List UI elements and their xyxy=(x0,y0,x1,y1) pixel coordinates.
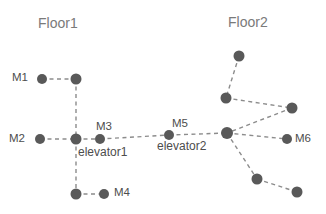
graph-node xyxy=(282,134,292,144)
graph-node xyxy=(287,103,298,114)
graph-node xyxy=(71,189,82,200)
graph-edge xyxy=(257,179,297,192)
floor-label-floor1: Floor1 xyxy=(38,16,78,30)
graph-edge xyxy=(227,133,287,139)
node-label: M2 xyxy=(9,133,25,145)
graph-node xyxy=(292,187,303,198)
graph-edge xyxy=(226,56,239,98)
elevator-label: elevator1 xyxy=(78,146,127,158)
node-label: M1 xyxy=(12,72,28,84)
node-label: M4 xyxy=(114,187,130,199)
floor-label-floor2: Floor2 xyxy=(228,15,268,29)
graph-node xyxy=(252,174,263,185)
graph-edge xyxy=(169,133,227,135)
nodes-layer xyxy=(35,51,303,200)
graph-edge xyxy=(226,98,292,108)
graph-node xyxy=(95,134,105,144)
graph-canvas xyxy=(0,0,326,214)
node-label: M6 xyxy=(295,133,311,145)
node-label: M3 xyxy=(96,121,112,133)
graph-edge xyxy=(227,133,257,179)
graph-node xyxy=(221,127,233,139)
floorplan-graph-diagram: M1M2elevator1M3M4M5elevator2M6Floor1Floo… xyxy=(0,0,326,214)
graph-node xyxy=(234,51,245,62)
graph-node xyxy=(221,93,232,104)
graph-node xyxy=(71,74,82,85)
graph-node xyxy=(35,134,45,144)
graph-node xyxy=(99,189,109,199)
elevator-label: elevator2 xyxy=(157,140,206,152)
node-label: M5 xyxy=(172,118,188,130)
graph-node xyxy=(71,134,82,145)
graph-edge xyxy=(227,108,292,133)
graph-node xyxy=(37,74,47,84)
